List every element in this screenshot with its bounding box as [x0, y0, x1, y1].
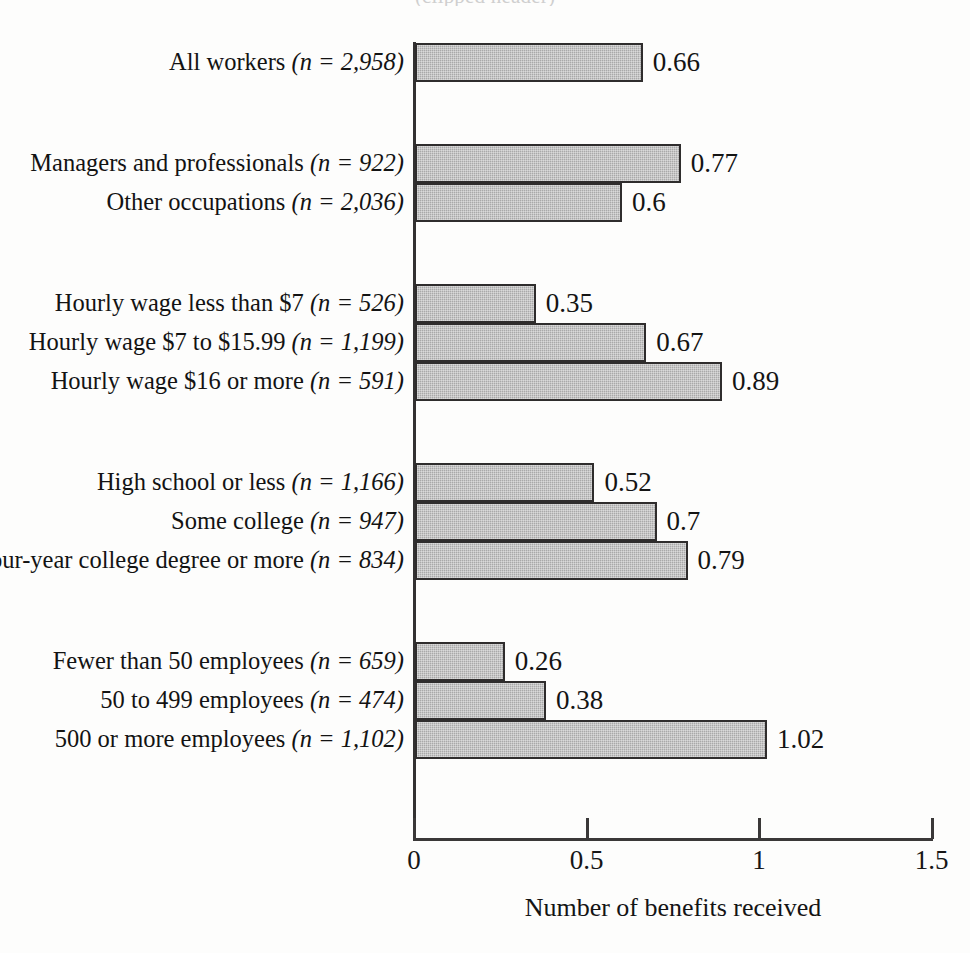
- category-label: High school or less (n = 1,166): [97, 470, 404, 495]
- category-label: Some college (n = 947): [171, 509, 404, 534]
- x-tick-0: [413, 818, 416, 839]
- category-label-sample-size: (n = 2,036): [292, 188, 404, 215]
- category-label: 500 or more employees (n = 1,102): [55, 727, 404, 752]
- category-label-text: Fewer than 50 employees: [53, 647, 310, 674]
- category-label-sample-size: (n = 834): [310, 546, 404, 573]
- bar-row: [415, 323, 646, 362]
- bar-value-label: 0.52: [604, 467, 651, 498]
- category-label: Hourly wage $16 or more (n = 591): [51, 369, 404, 394]
- category-label-sample-size: (n = 1,166): [292, 468, 404, 495]
- category-label-text: High school or less: [97, 468, 292, 495]
- category-label-sample-size: (n = 947): [310, 507, 404, 534]
- bar-value-label: 0.7: [667, 506, 701, 537]
- category-label-text: Other occupations: [106, 188, 291, 215]
- category-label-sample-size: (n = 1,102): [292, 725, 404, 752]
- x-tick-label-1.5: 1.5: [915, 845, 949, 876]
- category-label-text: Hourly wage $7 to $15.99: [29, 328, 292, 355]
- bar-row: [415, 681, 546, 720]
- category-label-sample-size: (n = 2,958): [292, 48, 404, 75]
- bar-row: [415, 144, 681, 183]
- bar-value-label: 0.89: [732, 366, 779, 397]
- bar-row: [415, 463, 594, 502]
- category-label-text: Some college: [171, 507, 310, 534]
- bar-value-label: 0.35: [546, 288, 593, 319]
- bar-row: [415, 720, 767, 759]
- category-label-sample-size: (n = 526): [310, 289, 404, 316]
- bar-chart-plot: 00.511.5 0.660.770.60.350.670.890.520.70…: [0, 0, 970, 953]
- category-label-text: 50 to 499 employees: [100, 686, 310, 713]
- bar-value-label: 0.38: [556, 685, 603, 716]
- category-label: Four-year college degree or more (n = 83…: [0, 548, 404, 573]
- category-label: Hourly wage $7 to $15.99 (n = 1,199): [29, 330, 404, 355]
- x-tick-label-0: 0: [407, 845, 421, 876]
- x-axis-line: [413, 838, 933, 841]
- chart-page: (clipped header) 00.511.5 0.660.770.60.3…: [0, 0, 970, 953]
- bar-row: [415, 284, 536, 323]
- category-label-text: 500 or more employees: [55, 725, 292, 752]
- bar-value-label: 0.77: [691, 148, 738, 179]
- bar-value-label: 0.79: [698, 545, 745, 576]
- category-label-text: All workers: [169, 48, 291, 75]
- bar-row: [415, 502, 657, 541]
- x-tick-1: [758, 818, 761, 839]
- category-label-sample-size: (n = 1,199): [292, 328, 404, 355]
- category-label-sample-size: (n = 474): [310, 686, 404, 713]
- x-tick-label-1: 1: [752, 845, 766, 876]
- category-label-sample-size: (n = 922): [310, 149, 404, 176]
- bar-row: [415, 362, 722, 401]
- category-label: Managers and professionals (n = 922): [30, 151, 404, 176]
- category-label-text: Hourly wage less than $7: [55, 289, 310, 316]
- x-tick-0.5: [586, 818, 589, 839]
- category-label: Other occupations (n = 2,036): [106, 190, 404, 215]
- category-label: Fewer than 50 employees (n = 659): [53, 649, 404, 674]
- category-label-text: Four-year college degree or more: [0, 546, 310, 573]
- x-tick-1.5: [931, 818, 934, 839]
- bar-row: [415, 43, 643, 82]
- category-label-text: Managers and professionals: [30, 149, 310, 176]
- bar-row: [415, 541, 688, 580]
- bar-value-label: 0.66: [653, 47, 700, 78]
- bar-value-label: 0.67: [656, 327, 703, 358]
- category-label-sample-size: (n = 591): [310, 367, 404, 394]
- bar-value-label: 0.26: [515, 646, 562, 677]
- x-tick-label-0.5: 0.5: [570, 845, 604, 876]
- bar-row: [415, 183, 622, 222]
- x-axis-title: Number of benefits received: [413, 893, 933, 923]
- bar-value-label: 1.02: [777, 724, 824, 755]
- category-label-text: Hourly wage $16 or more: [51, 367, 310, 394]
- bar-row: [415, 642, 505, 681]
- category-label: Hourly wage less than $7 (n = 526): [55, 291, 404, 316]
- category-label: All workers (n = 2,958): [169, 50, 404, 75]
- category-label: 50 to 499 employees (n = 474): [100, 688, 404, 713]
- bar-value-label: 0.6: [632, 187, 666, 218]
- category-label-sample-size: (n = 659): [310, 647, 404, 674]
